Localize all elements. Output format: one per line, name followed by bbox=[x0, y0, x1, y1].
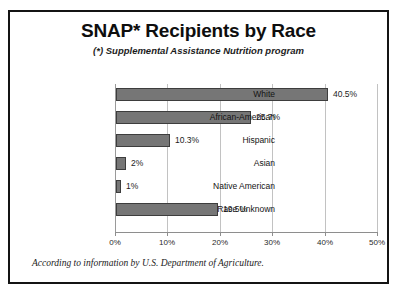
bar-value-label: 2% bbox=[131, 158, 143, 168]
bar bbox=[116, 180, 121, 193]
chart-title: SNAP* Recipients by Race bbox=[10, 20, 387, 42]
x-tick-label: 40% bbox=[317, 238, 333, 247]
tick-mark bbox=[377, 232, 378, 236]
bar bbox=[116, 88, 328, 101]
x-tick-label: 50% bbox=[369, 238, 385, 247]
source-annotation: According to information by U.S. Departm… bbox=[32, 258, 264, 268]
category-label: Race Unknown bbox=[217, 203, 275, 216]
category-label: White bbox=[253, 88, 275, 101]
bar bbox=[116, 203, 218, 216]
chart-subtitle: (*) Supplemental Assistance Nutrition pr… bbox=[10, 44, 387, 57]
category-label: Asian bbox=[254, 157, 275, 170]
x-tick-label: 30% bbox=[264, 238, 280, 247]
x-axis-line bbox=[115, 232, 378, 233]
tick-mark bbox=[272, 232, 273, 236]
tick-mark bbox=[115, 232, 116, 236]
x-tick-label: 20% bbox=[212, 238, 228, 247]
bar-value-label: 10.3% bbox=[175, 135, 199, 145]
bar-row: 40.5% bbox=[115, 88, 378, 101]
bar bbox=[116, 134, 170, 147]
title-block: SNAP* Recipients by Race (*) Supplementa… bbox=[10, 20, 387, 57]
bar-value-label: 40.5% bbox=[333, 89, 357, 99]
chart-frame: SNAP* Recipients by Race (*) Supplementa… bbox=[8, 10, 389, 284]
category-label: Hispanic bbox=[242, 134, 275, 147]
bar bbox=[116, 157, 126, 170]
x-tick-label: 10% bbox=[159, 238, 175, 247]
category-label: African-American bbox=[210, 111, 275, 124]
x-tick-label: 0% bbox=[109, 238, 121, 247]
tick-mark bbox=[167, 232, 168, 236]
bar-row: 2% bbox=[115, 157, 378, 170]
bar-value-label: 1% bbox=[126, 181, 138, 191]
tick-mark bbox=[325, 232, 326, 236]
tick-mark bbox=[220, 232, 221, 236]
category-label: Native American bbox=[213, 180, 275, 193]
